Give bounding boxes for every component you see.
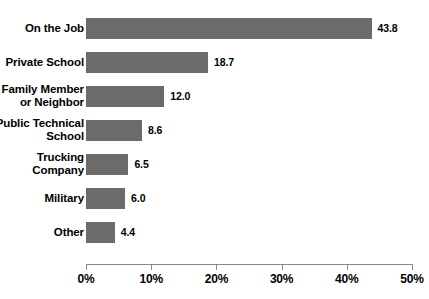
bar-group: 6.0 — [86, 181, 145, 215]
category-label-line: Military — [45, 192, 84, 205]
bar — [86, 188, 125, 209]
bar-row: Family Memberor Neighbor12.0 — [0, 79, 429, 113]
bar-value-label: 18.7 — [214, 57, 234, 68]
category-label-line: or Neighbor — [20, 96, 84, 109]
x-axis-tick — [216, 264, 217, 270]
bar-group: 18.7 — [86, 45, 234, 79]
x-axis-tick — [412, 264, 413, 270]
category-label-line: Private School — [6, 56, 85, 69]
category-label-line: Public Technical — [0, 117, 84, 130]
bar-row: TruckingCompany6.5 — [0, 147, 429, 181]
x-axis-tick-label: 10% — [139, 272, 162, 286]
category-label-line: Trucking — [37, 151, 84, 164]
bar — [86, 52, 208, 73]
bar-value-label: 4.4 — [121, 227, 135, 238]
category-label: On the Job — [0, 11, 84, 45]
x-axis-tick-label: 0% — [78, 272, 95, 286]
bar-value-label: 43.8 — [378, 23, 398, 34]
category-label: TruckingCompany — [0, 147, 84, 181]
category-label-line: Other — [54, 226, 84, 239]
category-label: Military — [0, 181, 84, 215]
bar — [86, 120, 142, 141]
category-label-line: School — [46, 130, 84, 143]
plot-area: On the Job43.8Private School18.7Family M… — [0, 0, 429, 299]
bar-row: Private School18.7 — [0, 45, 429, 79]
bar-row: On the Job43.8 — [0, 11, 429, 45]
bar — [86, 18, 372, 39]
category-label: Private School — [0, 45, 84, 79]
x-axis-tick-label: 20% — [205, 272, 228, 286]
bar-group: 12.0 — [86, 79, 190, 113]
category-label: Family Memberor Neighbor — [0, 79, 84, 113]
category-label-line: Company — [32, 164, 84, 177]
bar-value-label: 12.0 — [170, 91, 190, 102]
bar — [86, 154, 128, 175]
bar-row: Public TechnicalSchool8.6 — [0, 113, 429, 147]
bar-group: 6.5 — [86, 147, 149, 181]
category-label: Other — [0, 215, 84, 249]
bar-value-label: 8.6 — [148, 125, 162, 136]
bar-row: Other4.4 — [0, 215, 429, 249]
category-label-line: On the Job — [25, 22, 84, 35]
bar-group: 4.4 — [86, 215, 135, 249]
category-label: Public TechnicalSchool — [0, 113, 84, 147]
bar-group: 8.6 — [86, 113, 162, 147]
bar-value-label: 6.0 — [131, 193, 145, 204]
bar-group: 43.8 — [86, 11, 398, 45]
x-axis-tick-label: 40% — [335, 272, 358, 286]
x-axis-tick — [347, 264, 348, 270]
bar — [86, 222, 115, 243]
x-axis-tick-label: 50% — [400, 272, 423, 286]
x-axis-tick-label: 30% — [270, 272, 293, 286]
x-axis-tick — [151, 264, 152, 270]
bar-value-label: 6.5 — [134, 159, 148, 170]
bar-row: Military6.0 — [0, 181, 429, 215]
x-axis: 0%10%20%30%40%50% — [86, 264, 412, 299]
x-axis-line — [86, 264, 412, 265]
bar — [86, 86, 164, 107]
bar-chart: On the Job43.8Private School18.7Family M… — [0, 0, 429, 299]
x-axis-tick — [86, 264, 87, 270]
x-axis-tick — [282, 264, 283, 270]
category-label-line: Family Member — [2, 83, 84, 96]
